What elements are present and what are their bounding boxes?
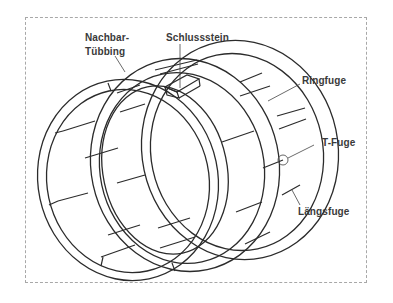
label-nachbar-tuebbing-line2: Tübbing (85, 46, 125, 58)
label-schlussstein: Schlussstein (166, 32, 229, 44)
label-t-fuge: T-Fuge (322, 137, 355, 149)
label-ringfuge: Ringfuge (302, 75, 346, 87)
label-laengsfuge: Längsfuge (298, 206, 349, 218)
segment-joints (49, 73, 306, 271)
label-nachbar-tuebbing-line1: Nachbar- (85, 32, 129, 44)
leader-lines (115, 44, 314, 205)
inner-opening (87, 74, 244, 266)
tunnel-lining-diagram (0, 0, 393, 303)
